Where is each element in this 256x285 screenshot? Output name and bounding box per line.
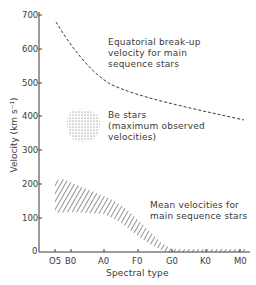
y-tick-200: 200	[22, 179, 38, 189]
y-axis-title: Velocity (km s⁻¹)	[9, 95, 19, 175]
be-stars-region	[67, 109, 100, 142]
x-tick-a0: A0	[98, 256, 109, 266]
y-tick-500: 500	[22, 78, 38, 88]
breakup-annotation-line1: Equatorial break-up	[108, 37, 201, 47]
be-annotation-line1: Be stars	[108, 110, 146, 120]
y-tick-300: 300	[22, 145, 38, 155]
be-annotation-line2: (maximum observed	[108, 121, 205, 131]
y-tick-100: 100	[22, 213, 38, 223]
x-tick-o5: O5	[49, 256, 61, 266]
y-tick-0: 0	[32, 246, 37, 256]
breakup-annotation-line2: velocity for main	[108, 48, 187, 58]
x-tick-b0: B0	[65, 256, 76, 266]
mean-annotation-line1: Mean velocities for	[150, 200, 239, 210]
x-tick-f0: F0	[132, 256, 142, 266]
y-tick-600: 600	[22, 44, 38, 54]
y-tick-400: 400	[22, 111, 38, 121]
mean-annotation-line2: main sequence stars	[150, 211, 248, 221]
y-axis	[39, 12, 42, 252]
y-tick-700: 700	[22, 10, 38, 20]
x-tick-k0: K0	[200, 256, 211, 266]
x-tick-g0: G0	[166, 256, 178, 266]
x-tick-m0: M0	[234, 256, 247, 266]
x-axis-title: Spectral type	[106, 268, 169, 278]
breakup-annotation-line3: sequence stars	[108, 59, 179, 69]
be-annotation-line3: velocities)	[108, 132, 156, 142]
